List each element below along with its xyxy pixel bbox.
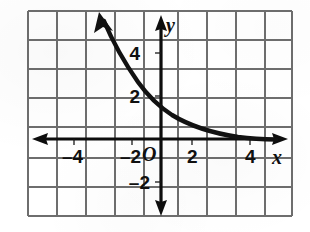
origin-label: O xyxy=(142,143,156,165)
figure-background xyxy=(0,0,310,232)
y-tick-label-2: 2 xyxy=(129,86,140,107)
y-tick-label-neg2: –2 xyxy=(129,172,150,193)
x-tick-label-4: 4 xyxy=(245,146,256,167)
y-axis-label: y xyxy=(164,14,175,37)
x-tick-label-neg2: –2 xyxy=(120,146,141,167)
y-tick-label-4: 4 xyxy=(129,43,140,64)
coordinate-plane-svg: –4 –2 2 4 4 2 –2 y x O xyxy=(0,0,310,232)
x-tick-label-2: 2 xyxy=(187,146,198,167)
graph-figure: –4 –2 2 4 4 2 –2 y x O xyxy=(0,0,310,232)
x-tick-label-neg4: –4 xyxy=(62,146,84,167)
x-axis-label: x xyxy=(271,146,282,168)
